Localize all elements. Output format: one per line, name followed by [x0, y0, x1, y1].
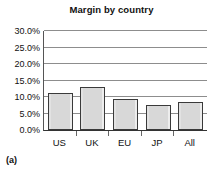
y-axis-tick-label: 15.0% [0, 76, 40, 86]
bar [80, 87, 105, 130]
x-axis-tick [141, 131, 142, 136]
figure-panel: Margin by country 0.0%5.0%10.0%15.0%20.0… [0, 0, 223, 173]
x-axis-ticks [43, 131, 207, 136]
x-axis-tick-label: EU [118, 137, 131, 148]
y-axis-tick-label: 25.0% [0, 43, 40, 53]
y-axis-tick-label: 30.0% [0, 26, 40, 36]
y-axis-tick-label: 0.0% [0, 125, 40, 135]
bar [113, 99, 138, 130]
x-axis-tick-label: UK [85, 137, 98, 148]
bar [178, 102, 203, 130]
chart-title: Margin by country [0, 4, 223, 15]
y-axis-tick-label: 5.0% [0, 109, 40, 119]
x-axis-tick [173, 131, 174, 136]
x-axis-tick [76, 131, 77, 136]
x-axis-tick-label: JP [152, 137, 163, 148]
x-axis-tick [108, 131, 109, 136]
bar-series [44, 31, 207, 130]
y-axis-tick-labels: 0.0%5.0%10.0%15.0%20.0%25.0%30.0% [0, 31, 40, 130]
plot-area [43, 31, 207, 131]
x-axis-tick-label: All [184, 137, 195, 148]
x-axis-tick-label: US [53, 137, 66, 148]
bar [48, 93, 73, 130]
y-axis-tick-label: 10.0% [0, 92, 40, 102]
panel-label: (a) [6, 155, 17, 165]
y-axis-tick-label: 20.0% [0, 59, 40, 69]
x-axis-tick-labels: USUKEUJPAll [43, 137, 206, 151]
bar [146, 105, 171, 130]
